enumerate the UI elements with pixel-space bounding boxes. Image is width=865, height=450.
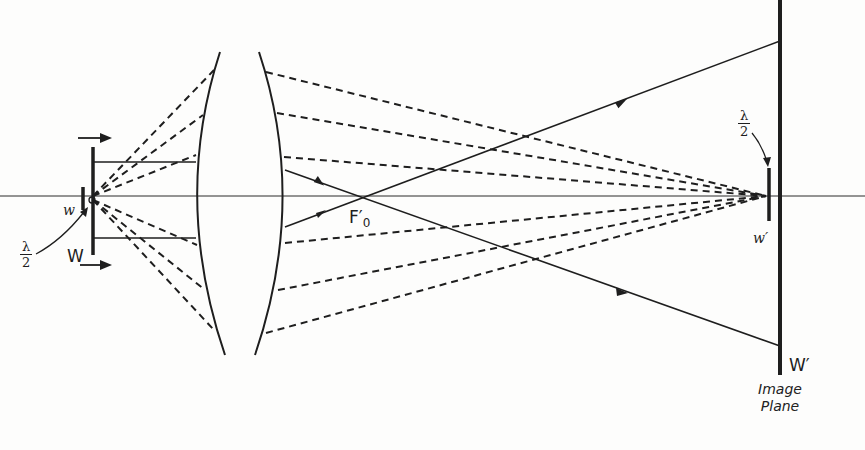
object-dashed-rays [93,70,214,330]
lens-left-surface [197,52,225,355]
right-lambda-pointer-head [763,157,771,167]
left-half-wavelength-label: λ 2 [20,240,32,269]
lens-right-surface [255,52,283,355]
object-plane-label: W [67,248,84,265]
solid-rays [285,41,780,346]
top-right-arrow [78,133,112,143]
image-plane-caption: Image Plane [755,381,805,415]
image-plane-label: W′ [789,357,810,374]
left-lambda-denominator: 2 [20,255,32,269]
image-element-label: w′ [753,231,768,245]
focal-point-main: F′ [349,207,363,227]
diagram-drawing [0,0,865,450]
left-lambda-numerator: λ [20,240,32,255]
image-plane-caption-line1: Image [755,381,805,398]
right-lambda-pointer [752,133,767,162]
right-half-wavelength-label: λ 2 [738,109,750,138]
focal-point-label: F′0 [349,209,370,226]
right-lambda-numerator: λ [738,109,750,124]
focal-point-subscript: 0 [363,216,371,230]
right-lambda-denominator: 2 [738,124,750,138]
image-dashed-rays [266,72,766,333]
bottom-right-arrow [80,260,112,270]
object-element-label: w [63,203,75,217]
optics-diagram: w W λ 2 F′0 λ 2 w′ W′ Image Plane [0,0,865,450]
image-plane-caption-line2: Plane [755,398,805,415]
